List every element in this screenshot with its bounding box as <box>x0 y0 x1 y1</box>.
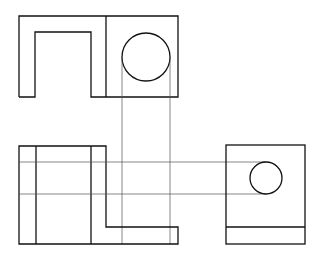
top-view <box>19 16 178 97</box>
side-view <box>226 145 305 244</box>
top-view-u-outline <box>19 16 178 97</box>
front-view-outline <box>19 146 178 244</box>
orthographic-drawing <box>0 0 320 255</box>
vertical-projection-lines <box>122 57 170 244</box>
horizontal-projection-lines <box>19 162 266 194</box>
top-view-hole <box>122 33 170 81</box>
side-view-hole <box>250 162 282 194</box>
front-view <box>19 146 178 244</box>
